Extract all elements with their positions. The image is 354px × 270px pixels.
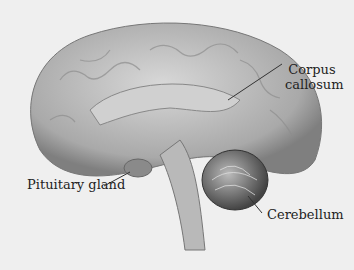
pituitary bbox=[124, 159, 152, 177]
cerebellum-label: Cerebellum bbox=[267, 207, 344, 222]
pituitary-gland-label: Pituitary gland bbox=[27, 177, 125, 192]
corpus-callosum-label-line1: Corpus bbox=[285, 62, 339, 77]
corpus-callosum-label-line2: callosum bbox=[285, 77, 339, 92]
corpus-callosum-label: Corpus callosum bbox=[285, 62, 339, 92]
brain-diagram: Corpus callosum Pituitary gland Cerebell… bbox=[0, 0, 354, 270]
brain-illustration bbox=[0, 0, 354, 270]
cerebellum bbox=[202, 150, 268, 210]
